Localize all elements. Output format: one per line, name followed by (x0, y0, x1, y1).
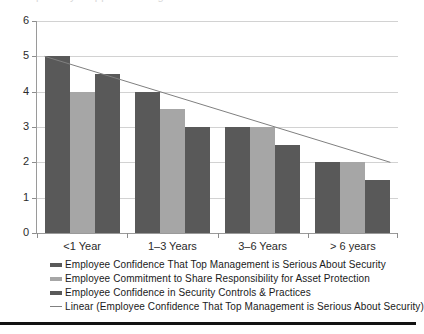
x-tick-mark (397, 233, 398, 238)
y-tick-mark (32, 162, 36, 163)
x-tick-label: 3–6 Years (218, 240, 308, 252)
y-tick-mark (32, 92, 36, 93)
cropped-title-text: partially cropped heading text (36, 0, 186, 2)
legend-color-swatch-icon (50, 277, 62, 281)
legend-item-label: Linear (Employee Confidence That Top Man… (65, 301, 424, 312)
x-tick-label: <1 Year (37, 240, 127, 252)
bar (315, 162, 340, 233)
x-tick-mark (37, 233, 38, 238)
legend-item-label: Employee Confidence That Top Management … (65, 259, 386, 270)
y-tick-label: 3 (3, 120, 29, 132)
chart-plot-area: 0123456 <1 Year1–3 Years3–6 Years> 6 yea… (37, 21, 398, 233)
bar (225, 127, 250, 233)
bar (250, 127, 275, 233)
x-tick-mark (308, 233, 309, 238)
legend-line-swatch-icon (50, 306, 62, 307)
bar (45, 56, 70, 233)
y-tick-label: 4 (3, 85, 29, 97)
bar (160, 109, 185, 233)
legend-color-swatch-icon (50, 291, 62, 295)
y-tick-mark (32, 198, 36, 199)
bar (365, 180, 390, 233)
y-tick-mark (32, 233, 36, 234)
x-tick-mark (218, 233, 219, 238)
y-tick-mark (32, 127, 36, 128)
y-tick-label: 2 (3, 155, 29, 167)
x-tick-mark (127, 233, 128, 238)
y-tick-label: 0 (3, 226, 29, 238)
bar (275, 145, 300, 233)
bar (340, 162, 365, 233)
bottom-divider (0, 322, 416, 325)
y-tick-mark (32, 56, 36, 57)
legend-item[interactable]: Employee Confidence That Top Management … (50, 258, 410, 271)
gridline (37, 21, 398, 22)
x-tick-label: > 6 years (308, 240, 398, 252)
gridline (37, 56, 398, 57)
y-tick-label: 5 (3, 49, 29, 61)
x-tick-label: 1–3 Years (127, 240, 217, 252)
chart-legend: Employee Confidence That Top Management … (50, 258, 410, 314)
cropped-title-strip: partially cropped heading text (0, 0, 416, 9)
bar (95, 74, 120, 233)
y-tick-label: 1 (3, 191, 29, 203)
y-tick-label: 6 (3, 14, 29, 26)
legend-item[interactable]: Employee Commitment to Share Responsibil… (50, 272, 410, 285)
legend-item[interactable]: Linear (Employee Confidence That Top Man… (50, 300, 410, 313)
legend-item[interactable]: Employee Confidence in Security Controls… (50, 286, 410, 299)
y-tick-mark (32, 21, 36, 22)
bar (185, 127, 210, 233)
legend-color-swatch-icon (50, 263, 62, 267)
bar (135, 92, 160, 233)
bar (70, 92, 95, 233)
legend-item-label: Employee Commitment to Share Responsibil… (65, 273, 370, 284)
legend-item-label: Employee Confidence in Security Controls… (65, 287, 311, 298)
